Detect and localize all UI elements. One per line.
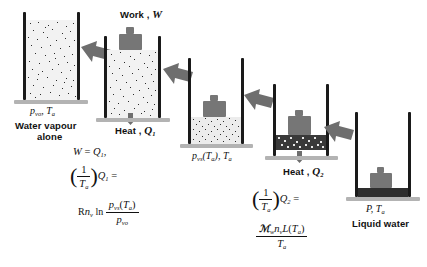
heat-q2-text: Heat , bbox=[283, 166, 309, 177]
support-surface bbox=[96, 118, 170, 122]
gas-region bbox=[107, 50, 158, 118]
heat-q1-label: Heat , Q1 bbox=[115, 124, 156, 136]
piston-block bbox=[288, 116, 311, 135]
paren-open: ( bbox=[70, 166, 77, 186]
piston-block bbox=[119, 34, 142, 50]
equation-left-line3: Rnv ln pvs(Ta)pvo bbox=[78, 198, 139, 227]
latent-heat-term: ℳwnvL(Ta)Ta bbox=[256, 222, 307, 251]
equation-right-line1: (1Ta)Q2 = bbox=[252, 186, 299, 214]
paren-open: ( bbox=[252, 189, 259, 209]
heat-q1-symbol: Q1 bbox=[144, 124, 155, 136]
support-surface bbox=[14, 100, 88, 104]
stage-1-caption-line1: Water vapour bbox=[15, 120, 77, 131]
process-arrow-4-to-5 bbox=[323, 120, 357, 150]
equation-left-line2: (1Ta)Q1 = bbox=[70, 163, 117, 191]
vessel-wall-right bbox=[408, 112, 411, 197]
pressure-ratio: pvs(Ta)pvo bbox=[106, 198, 139, 227]
one-over-Ta: 1Ta bbox=[77, 163, 90, 191]
equation-right-line2: ℳwnvL(Ta)Ta bbox=[256, 222, 307, 251]
support-surface bbox=[346, 197, 420, 201]
piston-block bbox=[370, 173, 392, 188]
support-surface bbox=[265, 156, 338, 160]
condensing-region bbox=[276, 135, 326, 150]
stage-1-state-label: pvo, Ta bbox=[30, 105, 55, 116]
thermodynamics-diagram: pvo, Ta Water vapour alone Work , W bbox=[0, 0, 427, 267]
heat-q2-symbol: Q2 bbox=[312, 165, 323, 177]
piston-block bbox=[203, 101, 226, 117]
work-label-text: Work , bbox=[120, 9, 149, 20]
equation-left-line1: W = Q1, bbox=[73, 146, 106, 157]
vessel-wall-right bbox=[158, 36, 161, 118]
support-surface bbox=[180, 144, 253, 148]
heat-q1-text: Heat , bbox=[115, 125, 141, 136]
process-arrow-3-to-4 bbox=[243, 88, 277, 118]
heat-q2-label: Heat , Q2 bbox=[283, 165, 324, 177]
liquid-water-region bbox=[358, 188, 408, 197]
work-label: Work , W bbox=[120, 8, 162, 20]
stage-5-state-label: P, Ta bbox=[366, 203, 385, 214]
one-over-Ta: 1Ta bbox=[259, 186, 272, 214]
piston-knob bbox=[126, 27, 134, 34]
gas-region bbox=[26, 20, 77, 100]
vessel-wall-left bbox=[355, 112, 358, 197]
stage-5-caption: Liquid water bbox=[352, 218, 409, 229]
stage-1-caption-line2: alone bbox=[37, 131, 62, 142]
gas-region-saturated bbox=[191, 117, 241, 144]
work-symbol: W bbox=[152, 8, 162, 20]
stage-3-state-label: pvs(Ta), Ta bbox=[192, 150, 232, 161]
paren-close: ) bbox=[272, 189, 279, 209]
paren-close: ) bbox=[90, 166, 97, 186]
